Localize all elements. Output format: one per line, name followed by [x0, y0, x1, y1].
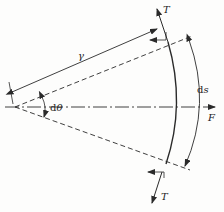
belt-arc	[166, 42, 177, 164]
diagram-canvas: γ dθ ds F T T	[0, 0, 224, 212]
lower-radial-line	[15, 107, 190, 170]
label-ds-s: s	[203, 84, 208, 95]
upper-radial-line	[15, 36, 192, 107]
dtheta-angle-arc	[42, 97, 45, 117]
radius-dimension-line	[12, 29, 157, 92]
label-tension-top: T	[163, 4, 171, 15]
label-dtheta: dθ	[50, 102, 62, 113]
ds-dimension-arc	[185, 40, 200, 166]
label-ds: ds	[197, 84, 209, 95]
label-radius: γ	[78, 50, 84, 61]
diagram-svg: γ dθ ds F T T	[0, 0, 224, 212]
top-small-force-arrow	[150, 32, 166, 40]
label-tension-bottom: T	[161, 191, 169, 202]
label-force-f: F	[207, 112, 216, 123]
radius-extension-line	[9, 82, 13, 104]
label-dtheta-theta: θ	[56, 102, 62, 113]
